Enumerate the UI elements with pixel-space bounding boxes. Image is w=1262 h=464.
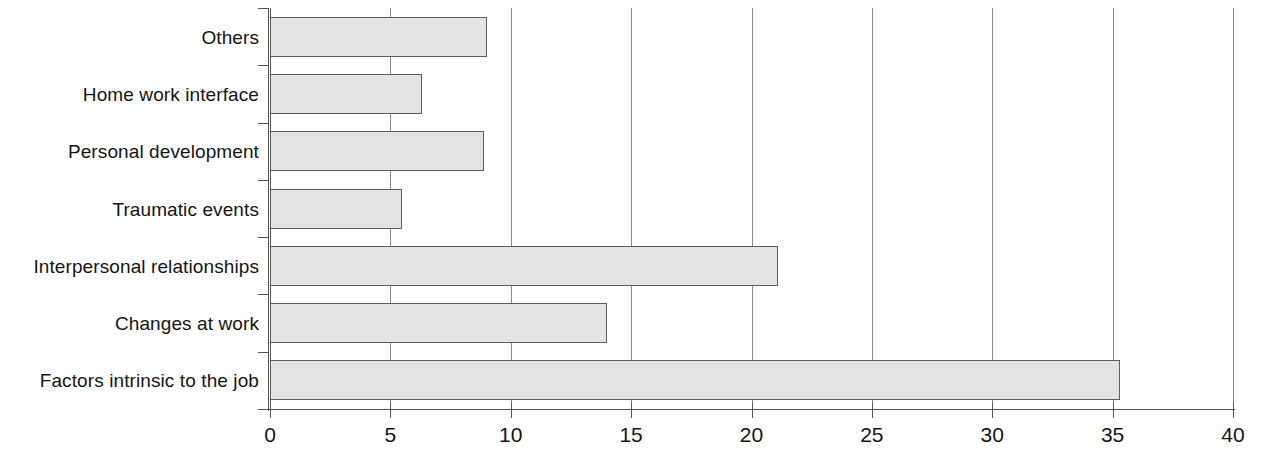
category-label: Interpersonal relationships bbox=[33, 257, 259, 276]
category-label: Changes at work bbox=[115, 314, 259, 333]
category-tick-top bbox=[258, 8, 269, 9]
value-tick-label: 5 bbox=[385, 424, 397, 445]
gridline-30 bbox=[992, 8, 993, 409]
category-label: Home work interface bbox=[83, 85, 259, 104]
category-tick bbox=[258, 65, 269, 66]
category-label: Traumatic events bbox=[112, 200, 259, 219]
value-tick-25 bbox=[872, 403, 873, 418]
category-label: Others bbox=[201, 28, 259, 47]
value-tick-35 bbox=[1113, 403, 1114, 418]
bar bbox=[270, 131, 484, 171]
value-tick-5 bbox=[390, 403, 391, 418]
value-tick-label: 15 bbox=[619, 424, 642, 445]
category-axis-line bbox=[268, 8, 269, 411]
value-tick-label: 10 bbox=[499, 424, 522, 445]
bar bbox=[270, 17, 487, 57]
value-tick-0 bbox=[270, 403, 271, 418]
value-tick-label: 25 bbox=[860, 424, 883, 445]
category-tick bbox=[258, 294, 269, 295]
category-tick bbox=[258, 352, 269, 353]
value-tick-10 bbox=[511, 403, 512, 418]
bar-chart: OthersHome work interfacePersonal develo… bbox=[0, 0, 1262, 464]
value-tick-label: 20 bbox=[740, 424, 763, 445]
gridline-40 bbox=[1233, 8, 1234, 409]
gridline-35 bbox=[1113, 8, 1114, 409]
gridline-20 bbox=[752, 8, 753, 409]
category-tick bbox=[258, 237, 269, 238]
gridline-15 bbox=[631, 8, 632, 409]
value-tick-label: 40 bbox=[1221, 424, 1244, 445]
category-tick bbox=[258, 180, 269, 181]
bar bbox=[270, 246, 778, 286]
plot-area bbox=[270, 8, 1233, 409]
category-label: Personal development bbox=[68, 142, 259, 161]
bar bbox=[270, 74, 422, 114]
value-tick-label: 0 bbox=[264, 424, 276, 445]
value-tick-15 bbox=[631, 403, 632, 418]
value-tick-label: 30 bbox=[981, 424, 1004, 445]
bar bbox=[270, 303, 607, 343]
value-tick-20 bbox=[752, 403, 753, 418]
bar bbox=[270, 360, 1120, 400]
value-tick-40 bbox=[1233, 403, 1234, 418]
gridline-10 bbox=[511, 8, 512, 409]
gridline-25 bbox=[872, 8, 873, 409]
category-tick bbox=[258, 123, 269, 124]
bar bbox=[270, 189, 402, 229]
value-tick-30 bbox=[992, 403, 993, 418]
value-tick-label: 35 bbox=[1101, 424, 1124, 445]
category-label: Factors intrinsic to the job bbox=[40, 371, 259, 390]
